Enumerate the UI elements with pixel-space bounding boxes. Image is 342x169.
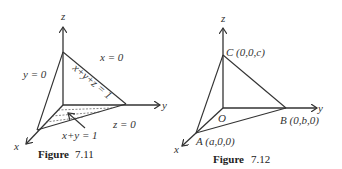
y-axis-label: y	[161, 99, 167, 111]
z-axis-label: z	[220, 12, 226, 24]
figure-caption-7-11: Figure	[38, 148, 69, 160]
point-B-label: B (0,b,0)	[280, 114, 319, 127]
x-axis-label: x	[173, 143, 179, 155]
figure-7-12: z y x C (0,0,c) O B (0,b,0) A (a,0,0) Fi…	[173, 12, 323, 165]
z-axis-label: z	[60, 10, 66, 22]
figure-caption-7-12: Figure	[213, 153, 244, 165]
point-C-label: C (0,0,c)	[226, 46, 265, 59]
origin-label: O	[218, 112, 226, 124]
edge-CB	[223, 55, 286, 108]
hatch-line	[58, 108, 112, 110]
x-axis-label: x	[13, 140, 19, 152]
point-A-label: A (a,0,0)	[195, 135, 235, 148]
line-xy-label: x+y = 1	[61, 129, 98, 141]
plane-xyz-label: x+y+z = 1	[70, 61, 115, 101]
y-axis-label: y	[317, 102, 323, 114]
plane-z0-label: z = 0	[112, 118, 136, 130]
plane-x0-label: x = 0	[99, 51, 124, 63]
plane-y0-label: y = 0	[22, 68, 47, 80]
figure-7-11: z y x y = 0 x = 0 z = 0 x+y+z = 1 x+y = …	[13, 10, 167, 160]
figure-number-7-12: 7.12	[251, 153, 270, 165]
figure-number-7-11: 7.11	[75, 148, 94, 160]
diagram-canvas: z y x y = 0 x = 0 z = 0 x+y+z = 1 x+y = …	[0, 0, 342, 169]
